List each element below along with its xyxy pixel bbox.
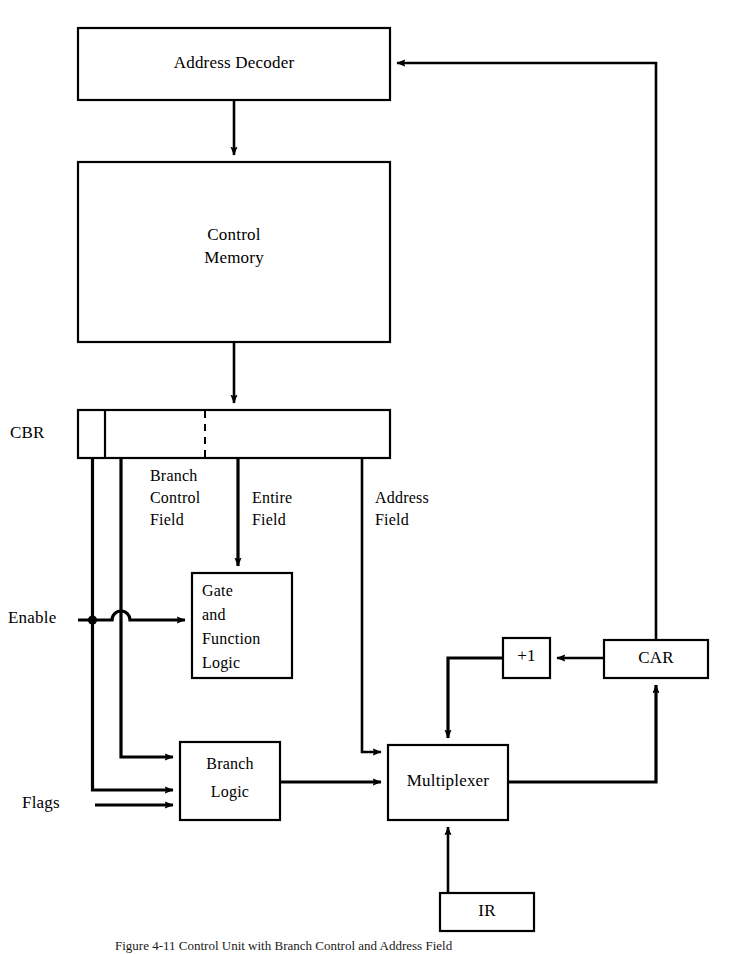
ir-label: IR <box>440 901 534 921</box>
car-label: CAR <box>604 648 708 668</box>
edge-car-to-address-decoder <box>397 63 656 640</box>
edge-incrementer-to-multiplexer <box>448 658 503 738</box>
address-field-label-line1: Address <box>375 488 475 508</box>
flags-signal-label: Flags <box>22 793 88 813</box>
figure-caption: Figure 4-11 Control Unit with Branch Con… <box>115 938 452 954</box>
edge-cbr-bit-to-branch-logic <box>93 458 174 790</box>
branch-control-field-label-line3: Field <box>150 510 260 530</box>
enable-junction-dot <box>88 615 97 624</box>
entire-field-label-line1: Entire <box>252 488 342 508</box>
control-memory-label-line2: Memory <box>78 248 390 268</box>
entire-field-label-line2: Field <box>252 510 342 530</box>
branch-logic-box <box>180 742 280 820</box>
branch-logic-label-line1: Branch <box>180 755 280 774</box>
address-field-label-line2: Field <box>375 510 475 530</box>
gate-logic-label-line4: Logic <box>202 654 290 673</box>
branch-logic-label-line2: Logic <box>180 783 280 802</box>
address-decoder-label: Address Decoder <box>78 53 390 73</box>
control-memory-label-line1: Control <box>78 225 390 245</box>
incrementer-label: +1 <box>503 646 550 666</box>
gate-logic-label-line3: Function <box>202 630 290 649</box>
cbr-label: CBR <box>10 423 72 443</box>
multiplexer-label: Multiplexer <box>388 771 508 791</box>
enable-signal-label: Enable <box>8 608 74 628</box>
gate-logic-label-line2: and <box>202 606 290 625</box>
edge-multiplexer-to-car <box>508 685 656 782</box>
cbr-register-box <box>78 410 390 458</box>
branch-control-field-label-line2: Control <box>150 488 260 508</box>
gate-logic-label-line1: Gate <box>202 582 290 601</box>
branch-control-field-label-line1: Branch <box>150 466 260 486</box>
